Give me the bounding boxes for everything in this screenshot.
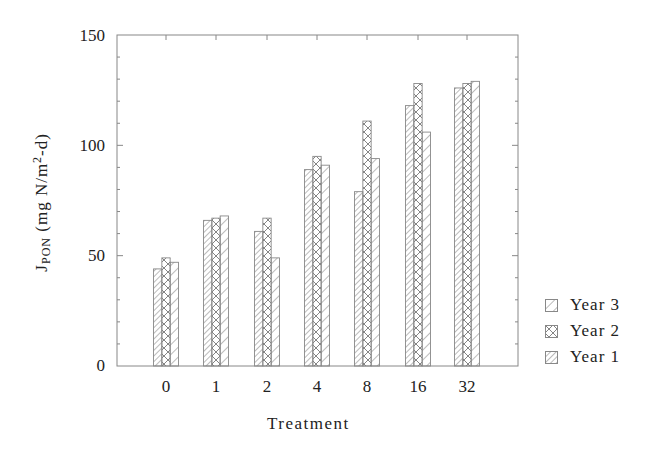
- bars: [154, 81, 480, 366]
- bar-year-1-16: [422, 132, 430, 366]
- bar-year-1-0: [170, 262, 178, 366]
- bar-year-1-4: [321, 165, 329, 366]
- legend-swatch-crosshatch-icon: [545, 325, 558, 338]
- bar-year-2-4: [313, 156, 321, 366]
- bar-year-2-32: [463, 84, 471, 366]
- y-axis-title: JPON (mg N/m2-d): [30, 112, 55, 292]
- bar-year-3-8: [355, 192, 363, 366]
- bar-year-3-2: [255, 231, 263, 366]
- bar-year-1-8: [371, 159, 379, 366]
- y-tick-0: 0: [55, 356, 105, 376]
- legend-item-year-2: Year 2: [545, 321, 620, 341]
- bar-year-1-2: [271, 258, 279, 366]
- legend-swatch-sparse-icon: [545, 299, 558, 312]
- bar-year-3-32: [455, 88, 463, 366]
- y-tick-50: 50: [55, 246, 105, 266]
- legend-swatch-dense-icon: [545, 351, 558, 364]
- x-tick-32: 32: [447, 377, 487, 397]
- bar-year-1-1: [220, 216, 228, 366]
- y-tick-100: 100: [55, 136, 105, 156]
- bar-year-1-32: [471, 81, 479, 366]
- y-tick-150: 150: [55, 26, 105, 46]
- bar-year-3-4: [305, 170, 313, 366]
- bar-year-2-0: [162, 258, 170, 366]
- bar-year-3-1: [204, 220, 212, 366]
- legend-item-year-3: Year 3: [545, 295, 620, 315]
- bar-year-2-2: [263, 218, 271, 366]
- x-tick-1: 1: [196, 377, 236, 397]
- bar-year-2-1: [212, 218, 220, 366]
- x-tick-2: 2: [247, 377, 287, 397]
- x-tick-8: 8: [347, 377, 387, 397]
- bar-year-3-16: [406, 106, 414, 366]
- x-tick-16: 16: [398, 377, 438, 397]
- legend-item-year-1: Year 1: [545, 347, 620, 367]
- bar-year-2-8: [363, 121, 371, 366]
- x-tick-0: 0: [146, 377, 186, 397]
- bar-year-3-0: [154, 269, 162, 366]
- x-axis-title: Treatment: [267, 414, 350, 434]
- x-tick-4: 4: [297, 377, 337, 397]
- bar-year-2-16: [414, 84, 422, 366]
